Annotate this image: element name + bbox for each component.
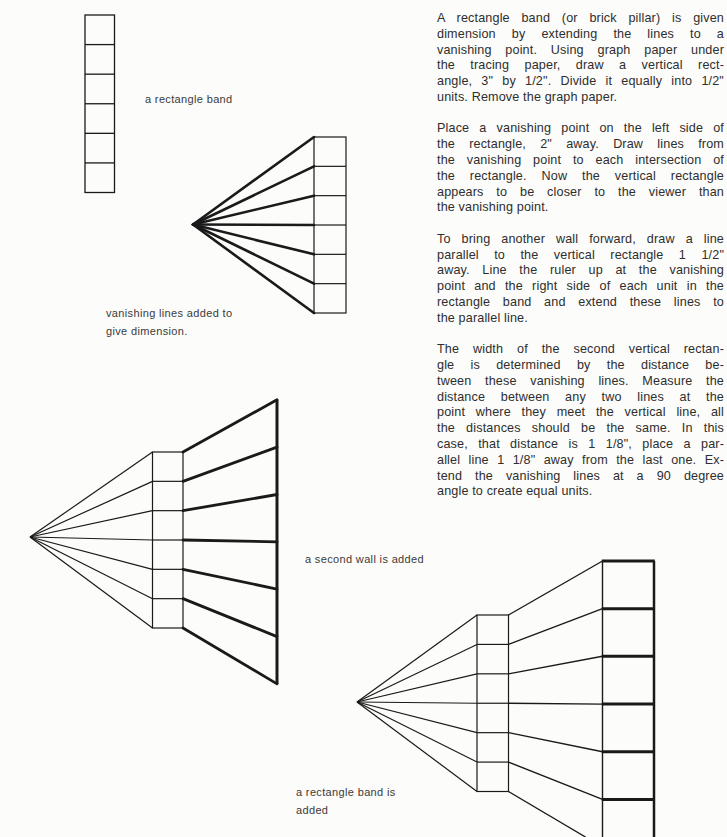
paragraph-1: A rectangle band (or brick pillar) is gi… <box>437 11 724 106</box>
new-band-unit-lines <box>602 561 655 799</box>
text-line: the tracing paper, draw a vertical rect- <box>437 58 724 74</box>
vanishing-lines <box>357 615 477 792</box>
text-line: angle to create equal units. <box>437 484 724 500</box>
figure3-caption: a second wall is added <box>305 551 424 569</box>
text-line: case, that distance is 1 1/8", place a p… <box>437 437 724 453</box>
band-dividers <box>85 45 115 163</box>
text-line: the rectangle, 2" away. Draw lines from <box>437 137 724 153</box>
text-line: the vanishing point to each intersection… <box>437 153 724 169</box>
text-line: parallel to the vertical rectangle 1 1/2… <box>437 248 724 264</box>
band-dividers <box>314 166 346 283</box>
text-line: the vanishing point. <box>437 200 724 216</box>
text-line: tween these vanishing lines. Measure the <box>437 374 724 390</box>
figure-vanishing-lines <box>193 137 346 313</box>
text-line: allel line 1 1/8" away from the last one… <box>437 453 724 469</box>
text-line: the parallel line. <box>437 311 724 327</box>
caption-line: a rectangle band is <box>296 784 396 802</box>
caption-line: a second wall is added <box>305 551 424 569</box>
paragraph-3: To bring another wall forward, draw a li… <box>437 232 724 327</box>
vanishing-lines <box>193 137 314 313</box>
text-line: point and the right side of each unit in… <box>437 279 724 295</box>
paragraph-2: Place a vanishing point on the left side… <box>437 121 724 216</box>
text-line: away. Line the ruler up at the vanishing <box>437 263 724 279</box>
text-line: distance between any two lines at the <box>437 390 724 406</box>
text-line: A rectangle band (or brick pillar) is gi… <box>437 11 724 27</box>
figure-rectangle-band <box>85 15 115 193</box>
band-dividers <box>153 481 184 598</box>
caption-line: a rectangle band <box>145 91 233 109</box>
paragraph-4: The width of the second vertical rectan-… <box>437 342 724 500</box>
text-line: the distances should be the same. In thi… <box>437 421 724 437</box>
text-line: Place a vanishing point on the left side… <box>437 121 724 137</box>
text-line: gle is determined by the distance be- <box>437 358 724 374</box>
text-line: rectangle band and extend these lines to <box>437 295 724 311</box>
caption-line: give dimension. <box>106 323 232 341</box>
band-dividers <box>477 644 509 762</box>
text-line: point where they meet the vertical line,… <box>437 405 724 421</box>
text-line: units. Remove the graph paper. <box>437 90 724 106</box>
book-page: a rectangle band vanishing lines added t… <box>0 0 727 837</box>
figure1-caption: a rectangle band <box>145 91 233 109</box>
extended-vanishing-lines <box>509 561 603 837</box>
caption-line: added <box>296 802 396 820</box>
instruction-text-column: A rectangle band (or brick pillar) is gi… <box>437 11 724 516</box>
text-line: angle, 3" by 1/2". Divide it equally int… <box>437 74 724 90</box>
vanishing-lines <box>30 452 153 628</box>
figure-rectangle-band-added <box>357 561 655 837</box>
extended-vanishing-lines <box>183 400 277 684</box>
text-line: the rectangle. Now the vertical rectangl… <box>437 169 724 185</box>
text-line: tend the vanishing lines at a 90 degree <box>437 469 724 485</box>
text-line: The width of the second vertical rectan- <box>437 342 724 358</box>
text-line: vanishing point. Using graph paper under <box>437 43 724 59</box>
text-line: dimension by extending the lines to a <box>437 27 724 43</box>
figure2-caption: vanishing lines added to give dimension. <box>106 305 232 341</box>
caption-line: vanishing lines added to <box>106 305 232 323</box>
text-line: appears to be closer to the viewer than <box>437 185 724 201</box>
figure-second-wall <box>30 400 277 684</box>
text-line: To bring another wall forward, draw a li… <box>437 232 724 248</box>
figure4-caption: a rectangle band is added <box>296 784 396 820</box>
